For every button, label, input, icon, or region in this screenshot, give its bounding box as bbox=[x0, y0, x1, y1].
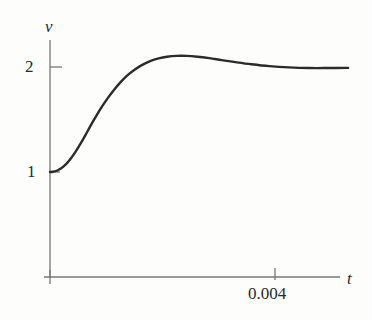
data-curve-v-of-t bbox=[50, 56, 348, 172]
x-axis-label: t bbox=[347, 270, 352, 287]
y-tick-label-2: 2 bbox=[25, 58, 34, 75]
plot-svg bbox=[0, 0, 372, 320]
y-axis-label: v bbox=[45, 18, 53, 35]
x-tick-label-0004: 0.004 bbox=[248, 285, 286, 302]
axes-group bbox=[44, 40, 340, 284]
figure-container: v t 2 1 0.004 bbox=[0, 0, 372, 320]
y-tick-label-1: 1 bbox=[27, 163, 36, 180]
